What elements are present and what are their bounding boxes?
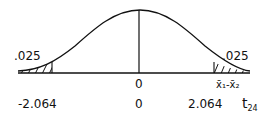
right-critical-value: 2.064 xyxy=(188,98,222,110)
distribution-label: t24 xyxy=(242,96,258,113)
center-t-value: 0 xyxy=(135,98,143,110)
difference-axis-label: x̄₁-x̄₂ xyxy=(216,80,239,90)
left-critical-value: -2.064 xyxy=(18,98,57,110)
left-tail-area-label: .025 xyxy=(14,50,41,62)
right-tail-area-label: .025 xyxy=(222,50,249,62)
bell-curve xyxy=(18,10,250,71)
center-value-label: 0 xyxy=(135,78,143,90)
